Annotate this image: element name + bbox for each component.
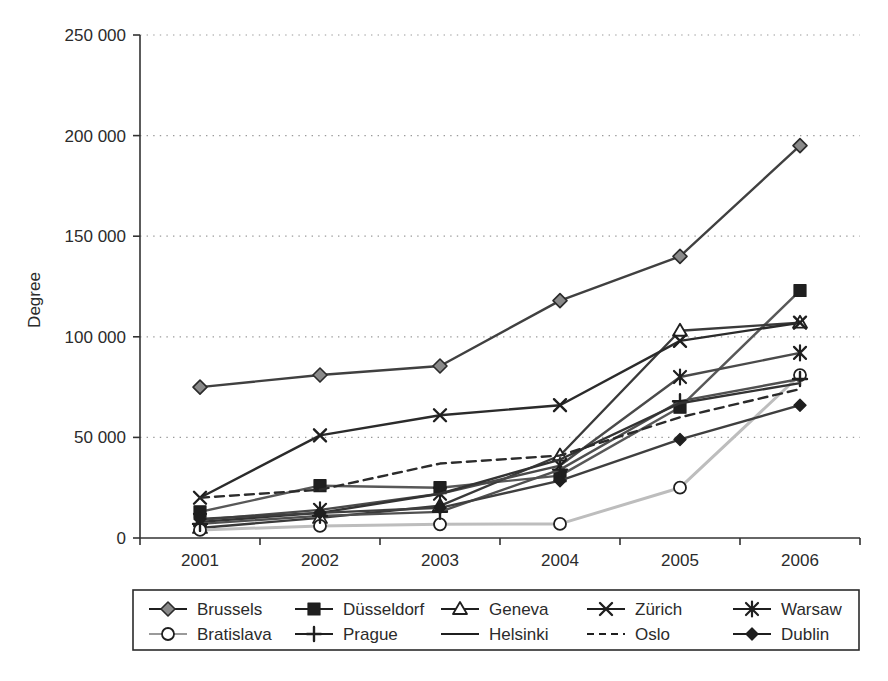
series-line	[200, 383, 800, 522]
legend-label: Brussels	[197, 600, 262, 619]
legend-label: Geneva	[489, 600, 549, 619]
x-tick-label: 2003	[421, 551, 459, 570]
series-line	[200, 146, 800, 387]
data-point-marker	[162, 628, 174, 640]
series-brussels	[193, 139, 807, 394]
legend-label: Düsseldorf	[343, 600, 425, 619]
axes	[133, 35, 860, 545]
data-point-marker	[794, 285, 806, 297]
series-line	[200, 323, 800, 528]
line-chart: 050 000100 000150 000200 000250 000 2001…	[0, 0, 888, 681]
x-tick-label: 2005	[661, 551, 699, 570]
legend-label: Helsinki	[489, 625, 549, 644]
y-axis-title-text: Degree	[25, 272, 44, 328]
gridlines	[140, 35, 860, 437]
series-geneva	[193, 316, 807, 533]
data-point-marker	[434, 518, 446, 530]
data-point-marker	[674, 482, 686, 494]
data-point-marker	[674, 433, 686, 445]
y-tick-label: 0	[117, 529, 126, 548]
chart-legend: BrusselsDüsseldorfGenevaZürichWarsawBrat…	[133, 590, 859, 650]
series-line	[200, 405, 800, 519]
y-tick-label: 150 000	[65, 227, 126, 246]
series-dublin	[194, 399, 806, 525]
y-tick-labels: 050 000100 000150 000200 000250 000	[65, 26, 126, 548]
data-point-marker	[433, 359, 447, 373]
data-point-marker	[794, 399, 806, 411]
data-point-marker	[554, 518, 566, 530]
y-tick-label: 50 000	[74, 428, 126, 447]
chart-container: 050 000100 000150 000200 000250 000 2001…	[0, 0, 888, 681]
legend-label: Warsaw	[781, 600, 842, 619]
legend-label: Oslo	[635, 625, 670, 644]
data-point-marker	[193, 380, 207, 394]
y-tick-label: 100 000	[65, 328, 126, 347]
series-helsinki	[200, 383, 800, 522]
x-tick-labels: 200120022003200420052006	[181, 551, 819, 570]
y-axis-title: Degree	[25, 272, 44, 328]
legend-label: Dublin	[781, 625, 829, 644]
x-tick-label: 2001	[181, 551, 219, 570]
x-tick-label: 2006	[781, 551, 819, 570]
legend-label: Zürich	[635, 600, 682, 619]
series-d-sseldorf	[194, 285, 806, 518]
y-tick-label: 250 000	[65, 26, 126, 45]
y-tick-label: 200 000	[65, 127, 126, 146]
data-point-marker	[308, 603, 320, 615]
data-point-marker	[553, 294, 567, 308]
legend-label: Prague	[343, 625, 398, 644]
series-prague	[193, 372, 807, 531]
x-tick-label: 2002	[301, 551, 339, 570]
x-tick-label: 2004	[541, 551, 579, 570]
data-point-marker	[313, 368, 327, 382]
legend-label: Bratislava	[197, 625, 272, 644]
